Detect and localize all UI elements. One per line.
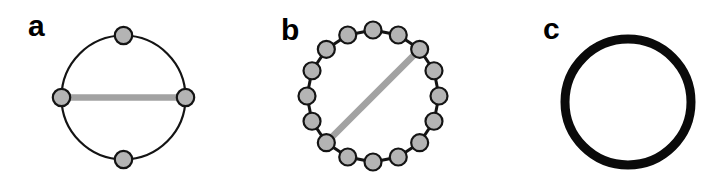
thick-ring bbox=[565, 39, 691, 165]
network-node bbox=[425, 62, 442, 79]
network-node bbox=[390, 27, 407, 44]
network-node bbox=[411, 41, 428, 58]
panel-b-label: b bbox=[281, 15, 299, 45]
panel-a-label: a bbox=[28, 11, 45, 41]
network-node bbox=[339, 27, 356, 44]
network-node bbox=[365, 22, 382, 39]
figure: a b c bbox=[0, 0, 716, 183]
diagram-canvas bbox=[0, 0, 716, 183]
panel-a bbox=[53, 27, 194, 168]
network-node bbox=[318, 134, 335, 151]
network-node bbox=[177, 89, 194, 106]
network-node bbox=[425, 113, 442, 130]
network-node bbox=[431, 88, 448, 105]
network-node bbox=[304, 62, 321, 79]
chord-edge bbox=[326, 49, 419, 142]
network-node bbox=[115, 151, 132, 168]
panel-c bbox=[565, 39, 691, 165]
panel-c-label: c bbox=[543, 14, 560, 44]
network-node bbox=[318, 41, 335, 58]
network-node bbox=[304, 113, 321, 130]
network-node bbox=[53, 89, 70, 106]
network-node bbox=[390, 148, 407, 165]
network-node bbox=[299, 88, 316, 105]
network-node bbox=[365, 154, 382, 171]
network-node bbox=[115, 27, 132, 44]
network-node bbox=[411, 134, 428, 151]
network-node bbox=[339, 148, 356, 165]
panel-b bbox=[299, 22, 448, 171]
